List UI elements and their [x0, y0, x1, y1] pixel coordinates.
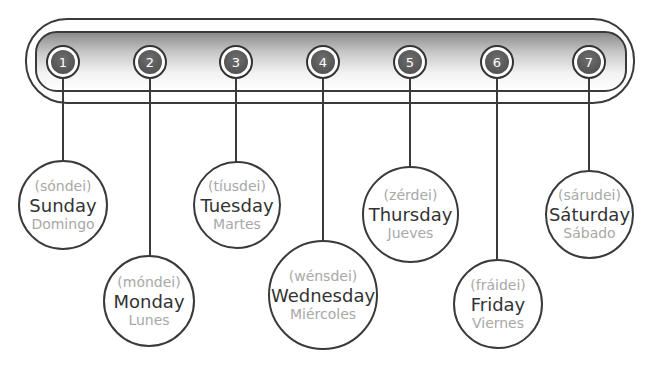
day-circle-friday: (fráidei) Friday Viernes — [453, 259, 543, 349]
pronunciation: (tíusdei) — [208, 178, 266, 195]
spanish-day: Martes — [213, 216, 261, 233]
number-badge-4: 4 — [306, 45, 340, 79]
number-label: 6 — [485, 50, 509, 74]
number-label: 1 — [51, 50, 75, 74]
pronunciation: (zérdei) — [384, 187, 438, 204]
day-circle-saturday: (sárudei) Sáturday Sábado — [545, 170, 634, 259]
number-label: 5 — [398, 50, 422, 74]
number-badge-3: 3 — [219, 45, 253, 79]
day-circle-monday: (móndei) Monday Lunes — [103, 255, 195, 347]
english-day: Thursday — [369, 204, 453, 225]
number-badge-6: 6 — [480, 45, 514, 79]
number-badge-7: 7 — [572, 45, 606, 79]
spanish-day: Jueves — [388, 225, 434, 242]
spanish-day: Lunes — [128, 312, 169, 329]
number-label: 4 — [311, 50, 335, 74]
pronunciation: (móndei) — [117, 274, 180, 291]
pronunciation: (wénsdei) — [289, 268, 358, 285]
number-label: 2 — [138, 50, 162, 74]
connector-line-2 — [149, 79, 151, 256]
pronunciation: (sóndei) — [34, 178, 91, 195]
english-day: Sáturday — [549, 204, 630, 225]
connector-line-7 — [588, 79, 590, 171]
day-circle-sunday: (sóndei) Sunday Domingo — [18, 160, 108, 250]
spanish-day: Sábado — [563, 225, 615, 242]
day-circle-tuesday: (tíusdei) Tuesday Martes — [193, 161, 281, 249]
number-badge-2: 2 — [133, 45, 167, 79]
pronunciation: (fráidei) — [470, 277, 525, 294]
connector-line-1 — [62, 79, 64, 161]
spanish-day: Viernes — [472, 315, 524, 332]
connector-line-5 — [409, 79, 411, 167]
number-badge-5: 5 — [393, 45, 427, 79]
number-label: 3 — [224, 50, 248, 74]
english-day: Friday — [471, 294, 526, 315]
english-day: Wednesday — [271, 285, 375, 306]
english-day: Sunday — [29, 195, 96, 216]
number-label: 7 — [577, 50, 601, 74]
connector-line-6 — [496, 79, 498, 260]
spanish-day: Miércoles — [290, 306, 356, 323]
day-circle-thursday: (zérdei) Thursday Jueves — [362, 166, 459, 263]
english-day: Monday — [113, 291, 184, 312]
spanish-day: Domingo — [31, 216, 94, 233]
connector-line-3 — [235, 79, 237, 162]
pronunciation: (sárudei) — [558, 187, 621, 204]
number-badge-1: 1 — [46, 45, 80, 79]
english-day: Tuesday — [200, 195, 273, 216]
connector-line-4 — [322, 79, 324, 241]
days-of-week-diagram: 1 2 3 4 5 6 7 (sóndei) Sunday Domingo (m… — [0, 0, 659, 370]
day-circle-wednesday: (wénsdei) Wednesday Miércoles — [268, 240, 378, 350]
